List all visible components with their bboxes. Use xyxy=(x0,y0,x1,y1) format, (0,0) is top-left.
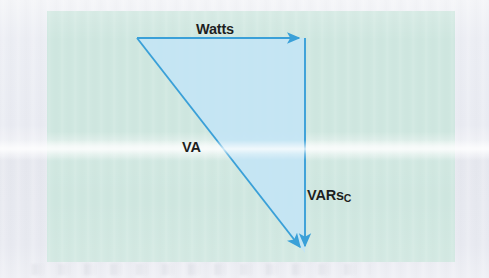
vars-label-subscript: C xyxy=(344,192,352,204)
vars-label-text: VARs xyxy=(307,187,344,203)
vars-label: VARsC xyxy=(307,187,351,203)
power-triangle-diagram xyxy=(0,0,489,278)
watts-label: Watts xyxy=(196,21,234,37)
figure-page: Watts VA VARsC xyxy=(0,0,489,278)
va-label: VA xyxy=(182,139,201,155)
